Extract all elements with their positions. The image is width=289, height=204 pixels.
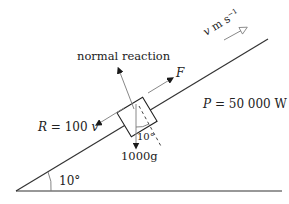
resistance-variable: v (91, 120, 98, 134)
resistance-symbol: R (37, 120, 47, 134)
power-value: = 50 000 W (211, 97, 287, 111)
resistance-label: R = 100 v (37, 120, 98, 134)
weight-label: 1000g (121, 149, 158, 163)
inclined-plane-diagram: 10° normal reaction F R = 100 v P = 50 0… (0, 0, 289, 204)
velocity-arrow (224, 29, 244, 40)
driving-force-label: F (175, 66, 185, 80)
incline-angle-label: 10° (59, 174, 80, 188)
power-label: P = 50 000 W (202, 97, 288, 111)
driving-force-arrow (148, 79, 171, 93)
weight-angle-label: 10° (137, 131, 155, 142)
resistance-expression: = 100 (47, 120, 91, 134)
velocity-exponent: −1 (226, 7, 239, 19)
normal-reaction-arrow (119, 70, 134, 109)
normal-reaction-label: normal reaction (77, 49, 171, 63)
incline-angle-arc (48, 172, 51, 191)
